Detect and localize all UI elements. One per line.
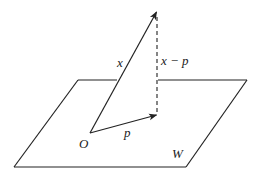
plane-left-edge: [14, 80, 78, 167]
vector-x-arrow: [90, 12, 157, 133]
plane-right-edge: [186, 80, 247, 167]
projection-diagram: x x − p p O W: [0, 0, 260, 178]
label-origin: O: [79, 136, 89, 151]
label-x-minus-p: x − p: [160, 53, 189, 68]
plane-w: [14, 80, 247, 167]
label-x: x: [116, 55, 123, 70]
label-p: p: [123, 125, 131, 140]
label-plane-w: W: [172, 146, 184, 161]
